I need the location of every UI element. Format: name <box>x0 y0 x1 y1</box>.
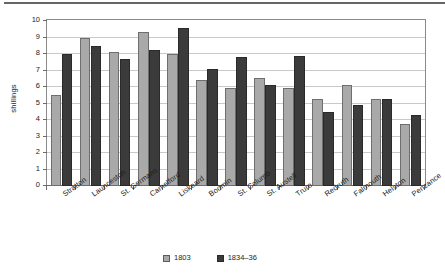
bar-group <box>134 20 163 186</box>
bar <box>371 99 382 186</box>
x-tick-mark <box>250 186 251 190</box>
x-tick-mark <box>162 186 163 190</box>
bar <box>51 95 62 186</box>
y-tick-label: 5 <box>10 99 40 107</box>
y-tick-label: 4 <box>10 115 40 123</box>
bar-group <box>367 20 396 186</box>
x-tick-mark <box>337 186 338 190</box>
bar <box>353 105 364 186</box>
bar <box>149 50 160 186</box>
bar <box>120 59 131 186</box>
bar <box>411 115 422 186</box>
bar-group <box>251 20 280 186</box>
bar <box>167 54 178 186</box>
legend-item-1803: 1803 <box>163 254 191 262</box>
x-tick-mark <box>75 186 76 190</box>
legend-swatch-icon-1834-36 <box>217 255 224 262</box>
bar <box>323 112 334 186</box>
bar <box>225 88 236 186</box>
legend-label-1803: 1803 <box>174 254 191 262</box>
bar-group <box>221 20 250 186</box>
bar <box>207 69 218 186</box>
bar <box>196 80 207 186</box>
bar-group <box>309 20 338 186</box>
x-tick-mark <box>220 186 221 190</box>
x-tick-mark <box>366 186 367 190</box>
y-tick-label: 7 <box>10 66 40 74</box>
bar <box>400 124 411 186</box>
x-tick-mark <box>191 186 192 190</box>
bars-layer <box>47 20 425 186</box>
y-tick-label: 6 <box>10 82 40 90</box>
y-tick-label: 2 <box>10 148 40 156</box>
x-tick-mark <box>308 186 309 190</box>
legend-label-1834-36: 1834–36 <box>228 254 257 262</box>
legend-item-1834-36: 1834–36 <box>217 254 257 262</box>
bar-group <box>280 20 309 186</box>
y-tick-label: 3 <box>10 132 40 140</box>
legend-swatch-icon-1803 <box>163 255 170 262</box>
bar <box>294 56 305 186</box>
bar-group <box>105 20 134 186</box>
bar-group <box>396 20 425 186</box>
x-tick-mark <box>424 186 425 190</box>
bar <box>254 78 265 186</box>
y-tick-label: 10 <box>10 16 40 24</box>
bar <box>236 57 247 186</box>
bar-group <box>76 20 105 186</box>
x-tick-mark <box>279 186 280 190</box>
y-tick-label: 8 <box>10 49 40 57</box>
bar <box>80 38 91 187</box>
x-tick-mark <box>133 186 134 190</box>
bar <box>138 32 149 186</box>
bar <box>62 54 73 186</box>
y-tick-label: 0 <box>10 181 40 189</box>
bar-group <box>163 20 192 186</box>
bar <box>312 99 323 186</box>
x-tick-mark <box>104 186 105 190</box>
bar <box>382 99 393 186</box>
chart-legend: 1803 1834–36 <box>163 254 257 262</box>
bar-chart-figure: shillings 109876543210 StrattonLauncesto… <box>0 0 445 278</box>
bar-group <box>192 20 221 186</box>
bar <box>91 46 102 186</box>
bar <box>283 88 294 186</box>
x-tick-mark <box>46 186 47 190</box>
y-tick-label: 9 <box>10 33 40 41</box>
x-tick-mark <box>395 186 396 190</box>
bar-group <box>47 20 76 186</box>
bar <box>265 85 276 186</box>
bar <box>342 85 353 186</box>
bar <box>178 28 189 186</box>
bar-group <box>338 20 367 186</box>
bar <box>109 52 120 186</box>
y-tick-label: 1 <box>10 165 40 173</box>
